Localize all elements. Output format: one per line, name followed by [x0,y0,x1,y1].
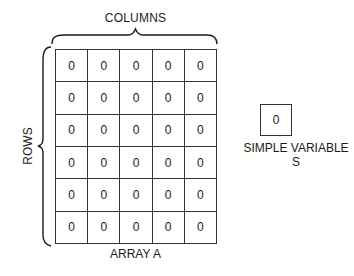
array-row: 0 0 0 0 0 [56,50,217,82]
array-row: 0 0 0 0 0 [56,179,217,211]
array-cell: 0 [120,179,152,211]
array-cell: 0 [88,146,120,178]
array-cell: 0 [120,211,152,243]
array-cell: 0 [152,146,184,178]
array-cell: 0 [120,146,152,178]
rows-label: ROWS [21,116,35,176]
array-cell: 0 [120,114,152,146]
array-cell: 0 [184,82,216,114]
array-cell: 0 [88,114,120,146]
array-cell: 0 [152,82,184,114]
array-cell: 0 [88,82,120,114]
array-cell: 0 [56,211,88,243]
array-cell: 0 [120,82,152,114]
array-cell: 0 [152,211,184,243]
array-cell: 0 [56,82,88,114]
array-cell: 0 [184,50,216,82]
array-cell: 0 [88,50,120,82]
array-grid: 0 0 0 0 0 0 0 0 0 0 0 0 0 0 0 0 0 0 0 0 [55,49,217,244]
array-cell: 0 [152,114,184,146]
simple-variable-box: 0 [260,104,292,136]
array-cell: 0 [88,179,120,211]
array-cell: 0 [152,50,184,82]
array-cell: 0 [56,50,88,82]
array-row: 0 0 0 0 0 [56,211,217,243]
array-row: 0 0 0 0 0 [56,82,217,114]
array-cell: 0 [184,146,216,178]
array-cell: 0 [152,179,184,211]
simple-variable-label: SIMPLE VARIABLE S [238,141,354,169]
array-cell: 0 [56,114,88,146]
array-label: ARRAY A [55,247,216,261]
array-cell: 0 [184,114,216,146]
array-cell: 0 [56,179,88,211]
array-cell: 0 [88,211,120,243]
array-cell: 0 [56,146,88,178]
array-cell: 0 [184,211,216,243]
array-cell: 0 [184,179,216,211]
array-row: 0 0 0 0 0 [56,114,217,146]
array-cell: 0 [120,50,152,82]
array-row: 0 0 0 0 0 [56,146,217,178]
